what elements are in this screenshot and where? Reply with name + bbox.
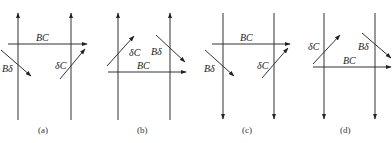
panel-b: BC Bδ δC (b) xyxy=(107,13,186,135)
bc-label: BC xyxy=(343,55,356,66)
delta-c-label: δC xyxy=(257,60,269,71)
caption-c: (c) xyxy=(242,125,252,135)
panel-c: BC Bδ δC (c) xyxy=(204,13,290,135)
panel-a: BC Bδ δC (a) xyxy=(1,13,87,135)
bc-label: BC xyxy=(137,60,150,71)
bc-label: BC xyxy=(240,32,253,43)
b-delta-label: Bδ xyxy=(204,63,215,74)
vector-diagram: BC Bδ δC (a) BC Bδ δC (b) BC Bδ δC (c) B… xyxy=(0,0,392,143)
delta-c-label: δC xyxy=(308,41,320,52)
b-delta-label: Bδ xyxy=(2,63,13,74)
caption-b: (b) xyxy=(137,125,148,135)
delta-c-label: δC xyxy=(55,60,67,71)
panel-d: BC Bδ δC (d) xyxy=(308,13,391,135)
caption-d: (d) xyxy=(340,125,351,135)
bc-label: BC xyxy=(36,32,49,43)
b-delta-label: Bδ xyxy=(358,41,369,52)
b-delta-label: Bδ xyxy=(151,46,162,57)
delta-c-label: δC xyxy=(129,47,141,58)
caption-a: (a) xyxy=(38,125,48,135)
